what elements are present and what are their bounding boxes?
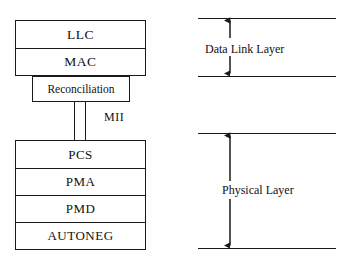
mii-interface-label: MII — [104, 110, 124, 125]
stack-layer-pcs: PCS — [16, 141, 145, 168]
stack-layer-autoneg: AUTONEG — [16, 222, 145, 249]
mii-connector-line-left — [74, 101, 75, 141]
annotation-label-physical-layer: Physical Layer — [222, 183, 294, 198]
stack-layer-pma: PMA — [16, 168, 145, 195]
reconciliation-sublayer-box: Reconciliation — [32, 76, 130, 102]
annotation-label-data-link-layer: Data Link Layer — [205, 42, 284, 57]
diagram-canvas: LLC MAC Reconciliation MII PCS PMA PMD A… — [0, 0, 342, 262]
span-rule-physical-bottom — [198, 248, 336, 249]
lower-protocol-stack: PCS PMA PMD AUTONEG — [15, 140, 146, 250]
span-rule-datalink-bottom — [198, 76, 336, 77]
mii-connector-line-right — [85, 101, 86, 141]
stack-layer-pmd: PMD — [16, 195, 145, 222]
upper-protocol-stack: LLC MAC — [15, 20, 146, 76]
stack-layer-llc: LLC — [16, 21, 145, 48]
stack-layer-mac: MAC — [16, 48, 145, 75]
